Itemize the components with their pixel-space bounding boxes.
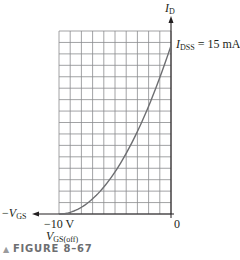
chart-grid [59, 31, 171, 214]
idss-annotation: IDSS = 15 mA [176, 38, 240, 52]
x-axis-label: −VGS [2, 207, 26, 221]
vgs-off-label: VGS(off) [46, 230, 78, 244]
figure-caption: ▲FIGURE 8–67 [3, 243, 93, 254]
caption-triangle-icon: ▲ [3, 245, 10, 254]
y-axis-label: ID [165, 2, 175, 16]
x-zero-tick-label: 0 [174, 218, 180, 230]
